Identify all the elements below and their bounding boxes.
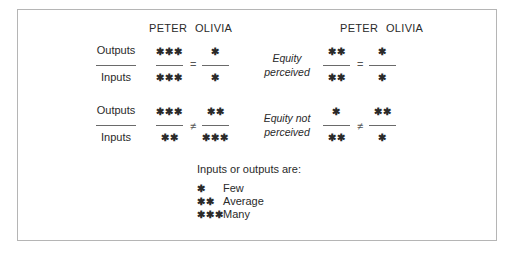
legend-symbol: ✱✱✱ [197,209,223,220]
row1-left-peter-inputs: ✱✱✱ [156,72,183,83]
row1-right-olivia-inputs: ✱ [369,72,396,83]
row1-outputs-label: Outputs [91,44,141,56]
legend-symbol: ✱✱ [197,196,223,207]
row1-left-olivia-divider [202,65,229,66]
row1-label-divider [96,65,136,66]
header-peter-left: PETER [149,22,187,34]
row1-right-operator: = [357,58,363,70]
row2-right-peter-inputs: ✱✱ [323,132,350,143]
row1-right-peter-outputs: ✱✱ [323,46,350,57]
row1-right-olivia-outputs: ✱ [369,46,396,57]
legend-item-few: ✱Few [197,182,244,194]
row1-caption: Equity perceived [252,51,322,79]
row2-left-peter-divider [156,125,183,126]
row1-right-olivia-divider [369,65,396,66]
row2-left-olivia-divider [202,125,229,126]
row2-outputs-label: Outputs [91,104,141,116]
legend-item-many: ✱✱✱Many [197,208,250,220]
row1-inputs-label: Inputs [91,71,141,83]
header-peter-right: PETER [340,22,378,34]
row2-left-operator: ≠ [190,120,196,132]
header-olivia-left: OLIVIA [195,22,232,34]
row2-label-divider [96,125,136,126]
row2-right-olivia-divider [369,125,396,126]
row2-right-operator: ≠ [357,120,363,132]
legend-label: Average [223,195,264,207]
row2-caption: Equity not perceived [252,111,322,139]
row1-right-peter-inputs: ✱✱ [323,72,350,83]
row2-right-olivia-inputs: ✱ [369,132,396,143]
row2-right-olivia-outputs: ✱✱ [369,106,396,117]
legend-title: Inputs or outputs are: [197,163,301,175]
row1-right-peter-divider [323,65,350,66]
row2-left-peter-outputs: ✱✱✱ [156,106,183,117]
row1-left-operator: = [190,58,196,70]
legend-label: Few [223,182,244,194]
row1-left-peter-outputs: ✱✱✱ [156,46,183,57]
legend-symbol: ✱ [197,183,223,194]
row1-left-olivia-inputs: ✱ [202,72,229,83]
row2-left-peter-inputs: ✱✱ [156,132,183,143]
legend-label: Many [223,208,250,220]
row1-left-peter-divider [156,65,183,66]
row2-inputs-label: Inputs [91,131,141,143]
row2-right-peter-outputs: ✱ [323,106,350,117]
row2-right-peter-divider [323,125,350,126]
row1-left-olivia-outputs: ✱ [202,46,229,57]
header-olivia-right: OLIVIA [386,22,423,34]
legend-item-average: ✱✱Average [197,195,264,207]
row2-left-olivia-outputs: ✱✱ [202,106,229,117]
row2-left-olivia-inputs: ✱✱✱ [202,132,229,143]
